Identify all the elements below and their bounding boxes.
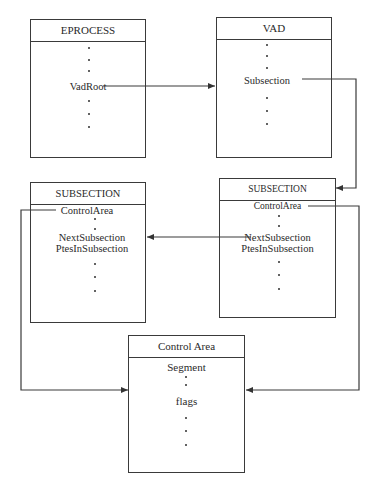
ellipsis-dot xyxy=(266,110,268,112)
field-controlarea: ControlArea xyxy=(29,205,145,216)
ellipsis-dot xyxy=(185,430,187,432)
field-nextsubsection: NextSubsection xyxy=(39,232,145,243)
ellipsis-dot xyxy=(266,67,268,69)
field-ptesinsubsection: PtesInSubsection xyxy=(220,243,335,254)
ellipsis-dot xyxy=(88,100,90,102)
field-ptesinsubsection: PtesInSubsection xyxy=(39,243,145,254)
eprocess-box: EPROCESS VadRoot xyxy=(30,19,146,158)
ellipsis-dot xyxy=(278,225,280,227)
subsection-right-box: SUBSECTION ControlArea NextSubsection Pt… xyxy=(219,178,336,318)
ellipsis-dot xyxy=(266,55,268,57)
ellipsis-dot xyxy=(94,218,96,220)
control-area-box: Control Area Segment flags xyxy=(128,335,245,473)
subsection-left-box: SUBSECTION ControlArea NextSubsection Pt… xyxy=(30,182,146,323)
ellipsis-dot xyxy=(278,288,280,290)
ellipsis-dot xyxy=(278,274,280,276)
subsection-right-title: SUBSECTION xyxy=(220,179,335,201)
ellipsis-dot xyxy=(94,228,96,230)
ellipsis-dot xyxy=(88,126,90,128)
field-segment: Segment xyxy=(129,362,244,373)
field-vadroot: VadRoot xyxy=(31,81,145,92)
field-controlarea: ControlArea xyxy=(220,201,335,212)
ellipsis-dot xyxy=(88,70,90,72)
ellipsis-dot xyxy=(185,444,187,446)
field-subsection: Subsection xyxy=(203,75,331,86)
ellipsis-dot xyxy=(94,263,96,265)
ellipsis-dot xyxy=(94,290,96,292)
field-flags: flags xyxy=(129,396,244,407)
ellipsis-dot xyxy=(185,384,187,386)
ellipsis-dot xyxy=(266,97,268,99)
control-area-title: Control Area xyxy=(129,336,244,358)
ellipsis-dot xyxy=(185,417,187,419)
ellipsis-dot xyxy=(278,261,280,263)
ellipsis-dot xyxy=(88,59,90,61)
ellipsis-dot xyxy=(88,47,90,49)
ellipsis-dot xyxy=(88,113,90,115)
vad-title: VAD xyxy=(217,18,331,40)
ellipsis-dot xyxy=(266,123,268,125)
subsection-left-title: SUBSECTION xyxy=(31,183,145,205)
field-nextsubsection: NextSubsection xyxy=(220,232,335,243)
vad-box: VAD Subsection xyxy=(216,17,332,158)
ellipsis-dot xyxy=(94,276,96,278)
ellipsis-dot xyxy=(278,215,280,217)
eprocess-title: EPROCESS xyxy=(31,20,145,42)
ellipsis-dot xyxy=(185,376,187,378)
ellipsis-dot xyxy=(266,44,268,46)
